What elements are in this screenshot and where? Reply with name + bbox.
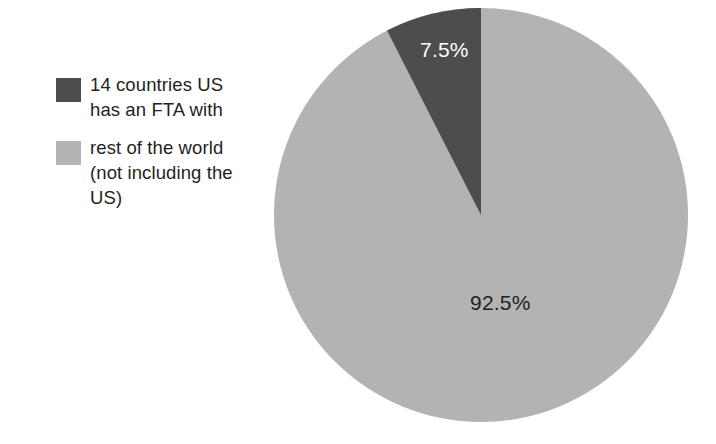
legend-item-rest-of-world[interactable]: rest of the world (not including the US) bbox=[56, 135, 271, 210]
legend-swatch-light-icon bbox=[56, 141, 81, 165]
legend-label-fta-countries: 14 countries US has an FTA with bbox=[90, 72, 223, 122]
pie-value-label-rest-of-world: 92.5% bbox=[470, 291, 531, 315]
pie-svg bbox=[274, 8, 688, 422]
legend-swatch-dark-icon bbox=[56, 78, 81, 102]
chart-legend: 14 countries US has an FTA with rest of … bbox=[56, 72, 271, 223]
pie-value-label-fta-countries: 7.5% bbox=[420, 38, 469, 62]
legend-item-fta-countries[interactable]: 14 countries US has an FTA with bbox=[56, 72, 271, 122]
pie-plot-area: 7.5% 92.5% bbox=[274, 8, 688, 422]
pie-chart-figure: 14 countries US has an FTA with rest of … bbox=[0, 0, 716, 444]
legend-label-rest-of-world: rest of the world (not including the US) bbox=[90, 135, 233, 210]
